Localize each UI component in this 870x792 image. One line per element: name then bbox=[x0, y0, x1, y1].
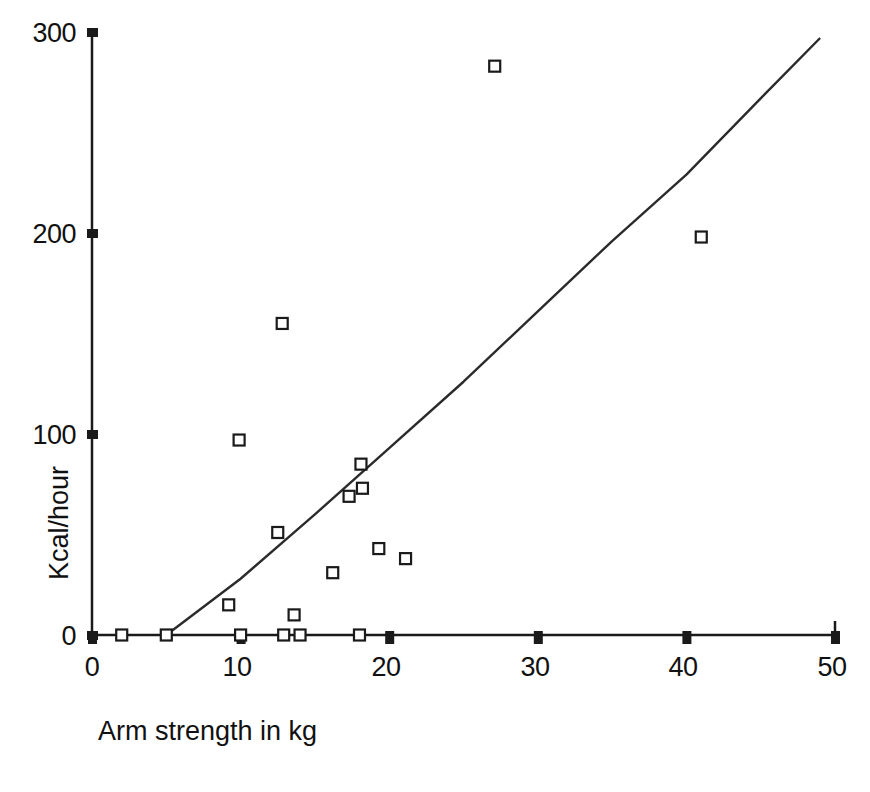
y-tick-label-100: 100 bbox=[8, 420, 76, 451]
y-axis-title: Kcal/hour bbox=[44, 466, 75, 580]
x-tick-label-10: 10 bbox=[211, 652, 263, 683]
data-point-marker bbox=[278, 630, 289, 641]
x-tick-30 bbox=[534, 631, 543, 644]
axis-ticks bbox=[87, 28, 840, 644]
data-point-marker bbox=[373, 543, 384, 554]
scatter-chart: 0 100 200 300 0 10 20 30 40 50 Kcal/hour… bbox=[0, 0, 870, 792]
data-point-marker bbox=[354, 630, 365, 641]
x-tick-label-20: 20 bbox=[360, 652, 412, 683]
plot-area bbox=[0, 0, 870, 792]
data-point-marker bbox=[489, 61, 500, 72]
x-tick-40 bbox=[682, 631, 691, 644]
data-point-marker bbox=[161, 630, 172, 641]
x-tick-label-40: 40 bbox=[657, 652, 709, 683]
regression-line bbox=[166, 38, 820, 635]
data-points bbox=[116, 61, 707, 641]
y-tick-label-200: 200 bbox=[8, 219, 76, 250]
y-tick-label-300: 300 bbox=[8, 18, 76, 49]
y-tick-300 bbox=[87, 28, 98, 37]
x-axis-title: Arm strength in kg bbox=[98, 716, 317, 747]
data-point-marker bbox=[357, 483, 368, 494]
data-point-marker bbox=[235, 630, 246, 641]
data-point-marker bbox=[355, 459, 366, 470]
data-point-marker bbox=[234, 435, 245, 446]
data-point-marker bbox=[289, 609, 300, 620]
data-point-marker bbox=[277, 318, 288, 329]
x-tick-20 bbox=[385, 631, 394, 644]
y-tick-label-0: 0 bbox=[24, 621, 76, 652]
data-point-marker bbox=[272, 527, 283, 538]
x-tick-0 bbox=[88, 631, 97, 644]
x-tick-label-0: 0 bbox=[66, 652, 118, 683]
x-tick-label-30: 30 bbox=[509, 652, 561, 683]
data-point-marker bbox=[327, 567, 338, 578]
axis-lines bbox=[92, 32, 835, 635]
data-point-marker bbox=[400, 553, 411, 564]
data-point-marker bbox=[223, 599, 234, 610]
fit-line-path bbox=[166, 38, 820, 635]
x-tick-label-50: 50 bbox=[806, 652, 858, 683]
data-point-marker bbox=[295, 630, 306, 641]
data-point-marker bbox=[344, 491, 355, 502]
y-tick-200 bbox=[87, 229, 98, 238]
y-tick-100 bbox=[87, 430, 98, 439]
data-point-marker bbox=[116, 630, 127, 641]
data-point-marker bbox=[696, 232, 707, 243]
